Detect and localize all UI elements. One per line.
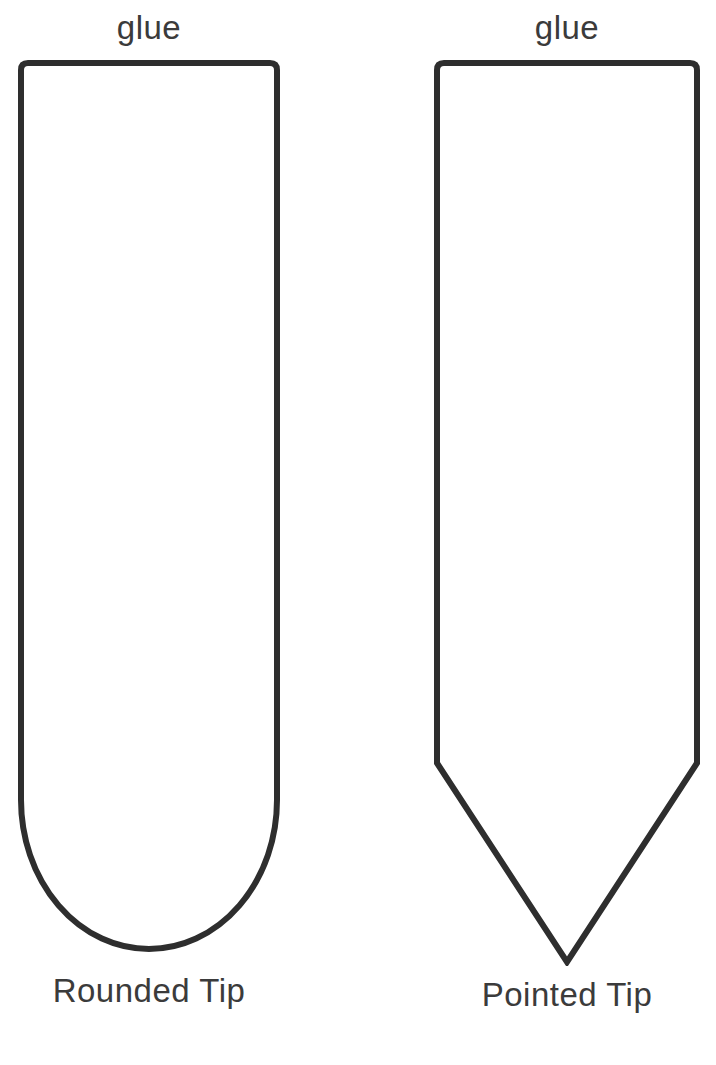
tip-name-label-rounded: Rounded Tip bbox=[18, 971, 280, 1011]
template-sheet: glue Rounded Tip glue Pointed Tip bbox=[0, 0, 716, 1065]
tip-name-label-pointed: Pointed Tip bbox=[434, 975, 700, 1015]
pointed-tip-outline bbox=[437, 63, 697, 962]
rounded-tip-template-shape bbox=[18, 60, 280, 952]
glue-label-pointed: glue bbox=[434, 8, 700, 48]
rounded-tip-outline bbox=[21, 63, 277, 949]
glue-label-rounded: glue bbox=[18, 8, 280, 48]
pointed-tip-template-shape bbox=[434, 60, 700, 966]
